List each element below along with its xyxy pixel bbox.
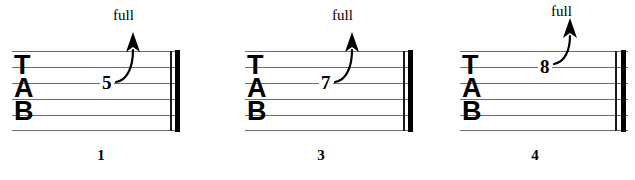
measure-number: 1 xyxy=(91,148,111,163)
tab-measure: T A B 8 full 4 xyxy=(460,0,635,180)
tab-clef-letter-b: B xyxy=(14,98,34,125)
tab-clef: T A B xyxy=(247,52,273,130)
bend-label: full xyxy=(113,8,134,23)
bend-label: full xyxy=(332,8,353,23)
measure-number: 3 xyxy=(311,148,331,163)
tab-clef: T A B xyxy=(14,52,40,130)
tab-clef-letter-b: B xyxy=(247,98,267,125)
bend-arrow-icon xyxy=(335,22,405,92)
staff-line xyxy=(245,130,413,131)
bend-label: full xyxy=(551,4,572,19)
staff-line xyxy=(460,130,628,131)
fret-number: 7 xyxy=(319,73,333,92)
measure-number: 4 xyxy=(525,148,545,163)
tab-measure: T A B 5 full 1 xyxy=(12,0,212,180)
barline-thick xyxy=(408,50,413,132)
fret-number: 8 xyxy=(538,57,552,76)
bend-arrow-icon xyxy=(554,10,624,80)
tab-measure: T A B 7 full 3 xyxy=(245,0,445,180)
tab-clef-letter-b: B xyxy=(462,98,482,125)
tab-clef: T A B xyxy=(462,52,488,130)
staff-line xyxy=(12,130,180,131)
tab-sheet: T A B 5 full 1 T A B xyxy=(0,0,635,180)
bend-arrow-icon xyxy=(116,22,186,92)
fret-number: 5 xyxy=(100,73,114,92)
